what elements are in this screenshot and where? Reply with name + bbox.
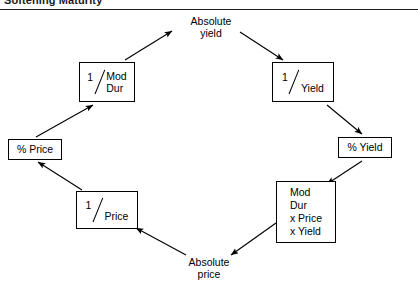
fraction-numerator: 1 [282,69,288,84]
node-absolute-yield-label: Absolute yield [191,15,232,40]
node-absolute-price: Absolute price [174,254,244,282]
fraction-inverse-yield: 1 Yield [282,69,324,95]
fraction-denominator: Price [104,210,128,223]
edge-inv-price-to-pct-price [38,162,82,190]
edge-inv-yield-to-pct-yield [327,105,362,134]
node-absolute-yield: Absolute yield [176,13,246,41]
edge-pct-price-to-inv-moddur [36,105,93,137]
edge-inv-moddur-to-abs-yield [125,31,172,60]
fraction-numerator: 1 [86,197,92,212]
node-absolute-price-label: Absolute price [189,256,230,281]
fraction-inverse-mod-dur: 1 Mod Dur [87,69,126,95]
node-inverse-mod-dur: 1 Mod Dur [79,62,135,102]
fraction-inverse-price: 1 Price [86,197,129,223]
fraction-slash-icon [289,69,300,95]
edge-abs-yield-to-inv-yield [240,32,283,60]
fraction-numerator: 1 [87,69,93,84]
diagram-page: Softening Maturity % Price 1 Mod Dur [0,0,418,289]
node-mod-dur-price-yield: Mod Dur x Price x Yield [276,181,336,243]
fraction-slash-icon [94,69,105,95]
node-inverse-yield: 1 Yield [272,62,334,102]
node-mod-dur-price-yield-label: Mod Dur x Price x Yield [290,186,322,238]
node-percent-yield: % Yield [338,137,392,158]
fraction-denominator: Mod Dur [106,70,126,95]
fraction-slash-icon [92,197,103,223]
edge-abs-price-to-inv-price [136,228,186,255]
edge-modfull-to-abs-price [231,223,276,255]
node-percent-price: % Price [8,139,62,160]
node-percent-price-label: % Price [17,143,53,156]
node-inverse-price: 1 Price [76,191,138,229]
fraction-denominator: Yield [301,82,324,95]
node-percent-yield-label: % Yield [347,141,382,154]
